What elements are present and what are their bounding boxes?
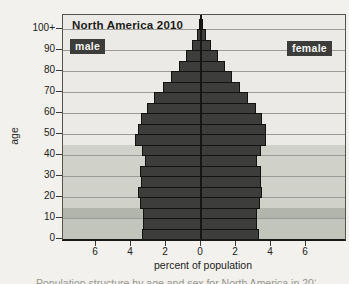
- chart-title: North America 2010: [72, 19, 183, 31]
- bar-female-80-84: [201, 61, 225, 73]
- bar-female-85-89: [201, 50, 218, 62]
- bar-male-65-69: [154, 92, 201, 104]
- bar-female-65-69: [201, 92, 248, 104]
- bar-male-70-74: [163, 82, 201, 94]
- bar-male-10-14: [143, 208, 201, 220]
- bar-female-90-94: [201, 40, 211, 52]
- bar-male-35-39: [145, 155, 201, 167]
- y-tick-label-50: 50: [21, 127, 55, 138]
- x-tick-label-6-0: 6: [92, 246, 98, 257]
- x-tick-label-2-2: 2: [162, 246, 168, 257]
- bar-female-5-9: [201, 218, 257, 230]
- female-side-label: female: [287, 41, 332, 56]
- y-tick-label-0: 0: [21, 232, 55, 243]
- bar-male-15-19: [140, 197, 201, 209]
- bar-female-75-79: [201, 71, 232, 83]
- plot-area: North America 2010 male female: [62, 14, 346, 241]
- y-tick-mark-0: [56, 238, 62, 239]
- y-tick-mark-60: [56, 112, 62, 113]
- x-tick-label-4-1: 4: [127, 246, 133, 257]
- y-tick-label-80: 80: [21, 64, 55, 75]
- y-tick-mark-90: [56, 49, 62, 50]
- y-tick-label-20: 20: [21, 190, 55, 201]
- y-tick-label-70: 70: [21, 85, 55, 96]
- bar-male-55-59: [141, 113, 201, 125]
- cropped-caption-fragment: Population structure by age and sex for …: [36, 277, 316, 284]
- y-tick-mark-50: [56, 133, 62, 134]
- y-tick-label-60: 60: [21, 106, 55, 117]
- male-side-label: male: [70, 39, 105, 54]
- y-tick-label-10: 10: [21, 211, 55, 222]
- y-tick-label-30: 30: [21, 169, 55, 180]
- x-tick-label-2-4: 2: [232, 246, 238, 257]
- bar-female-45-49: [201, 134, 266, 146]
- y-tick-mark-40: [56, 154, 62, 155]
- bar-female-25-29: [201, 176, 261, 188]
- bar-female-60-64: [201, 103, 256, 115]
- scanned-figure-page: North America 2010 male female age 01020…: [0, 0, 349, 284]
- bar-female-30-34: [201, 166, 261, 178]
- x-tick-label-0-3: 0: [197, 246, 203, 257]
- bar-female-35-39: [201, 155, 257, 167]
- bar-female-40-44: [201, 145, 261, 157]
- y-tick-mark-100+: [56, 28, 62, 29]
- bar-male-45-49: [135, 134, 202, 146]
- y-tick-mark-70: [56, 91, 62, 92]
- bar-male-40-44: [142, 145, 202, 157]
- y-tick-mark-30: [56, 175, 62, 176]
- y-tick-mark-20: [56, 196, 62, 197]
- y-tick-label-90: 90: [21, 43, 55, 54]
- bar-male-75-79: [171, 71, 201, 83]
- bar-female-70-74: [201, 82, 240, 94]
- bar-female-15-19: [201, 197, 260, 209]
- center-axis-line: [200, 15, 202, 239]
- y-tick-mark-80: [56, 70, 62, 71]
- bar-male-25-29: [141, 176, 201, 188]
- bar-male-50-54: [138, 124, 201, 136]
- bar-male-30-34: [140, 166, 201, 178]
- bar-male-20-24: [138, 187, 201, 199]
- y-tick-label-100+: 100+: [21, 22, 55, 33]
- y-tick-label-40: 40: [21, 148, 55, 159]
- bar-male-80-84: [179, 61, 201, 73]
- bar-female-50-54: [201, 124, 266, 136]
- x-axis-title: percent of population: [62, 259, 344, 271]
- bar-female-0-4: [201, 229, 259, 241]
- bar-female-20-24: [201, 187, 262, 199]
- bar-male-0-4: [142, 229, 202, 241]
- bar-female-10-14: [201, 208, 257, 220]
- bar-female-55-59: [201, 113, 262, 125]
- x-tick-label-4-5: 4: [267, 246, 273, 257]
- bar-male-85-89: [186, 50, 201, 62]
- y-tick-mark-10: [56, 217, 62, 218]
- bar-male-5-9: [143, 218, 201, 230]
- y-axis-title: age: [8, 121, 20, 151]
- x-tick-label-6-6: 6: [302, 246, 308, 257]
- bar-male-60-64: [147, 103, 201, 115]
